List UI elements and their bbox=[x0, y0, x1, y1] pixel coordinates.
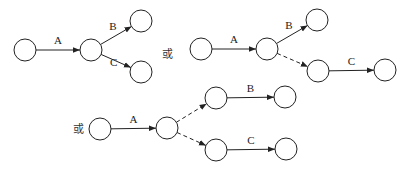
event-node bbox=[307, 60, 329, 82]
activity-label: C bbox=[348, 55, 355, 67]
event-node bbox=[190, 38, 212, 60]
dummy-activity-arrow bbox=[277, 53, 308, 66]
or-label: 或 bbox=[162, 48, 173, 61]
event-node bbox=[80, 39, 102, 61]
activity-arrow bbox=[227, 97, 274, 98]
diagram-d3: ABC bbox=[89, 82, 297, 161]
diagram-d2: ABC bbox=[190, 9, 396, 82]
activity-label: A bbox=[129, 113, 137, 125]
network-diagram: ABCABCABC或或 bbox=[0, 0, 401, 174]
or-label: 或 bbox=[73, 123, 84, 136]
event-node bbox=[14, 39, 36, 61]
event-node bbox=[256, 38, 278, 60]
activity-arrow bbox=[111, 128, 156, 129]
diagram-d1: ABC bbox=[14, 10, 152, 83]
activity-label: B bbox=[285, 19, 292, 31]
event-node bbox=[306, 9, 328, 31]
event-node bbox=[156, 117, 178, 139]
event-node bbox=[275, 138, 297, 160]
event-node bbox=[374, 59, 396, 81]
event-node bbox=[89, 118, 111, 140]
event-node bbox=[130, 61, 152, 83]
event-node bbox=[205, 87, 227, 109]
event-node bbox=[274, 86, 296, 108]
dummy-activity-arrow bbox=[177, 133, 206, 146]
activity-label: B bbox=[247, 82, 254, 94]
activity-arrow bbox=[329, 70, 374, 71]
activity-label: A bbox=[54, 34, 62, 46]
event-node bbox=[205, 139, 227, 161]
event-node bbox=[130, 10, 152, 32]
activity-label: C bbox=[247, 134, 254, 146]
activity-label: B bbox=[109, 20, 116, 32]
dummy-activity-arrow bbox=[176, 104, 206, 123]
activity-arrow bbox=[227, 149, 275, 150]
activity-label: C bbox=[110, 56, 117, 68]
activity-label: A bbox=[230, 33, 238, 45]
